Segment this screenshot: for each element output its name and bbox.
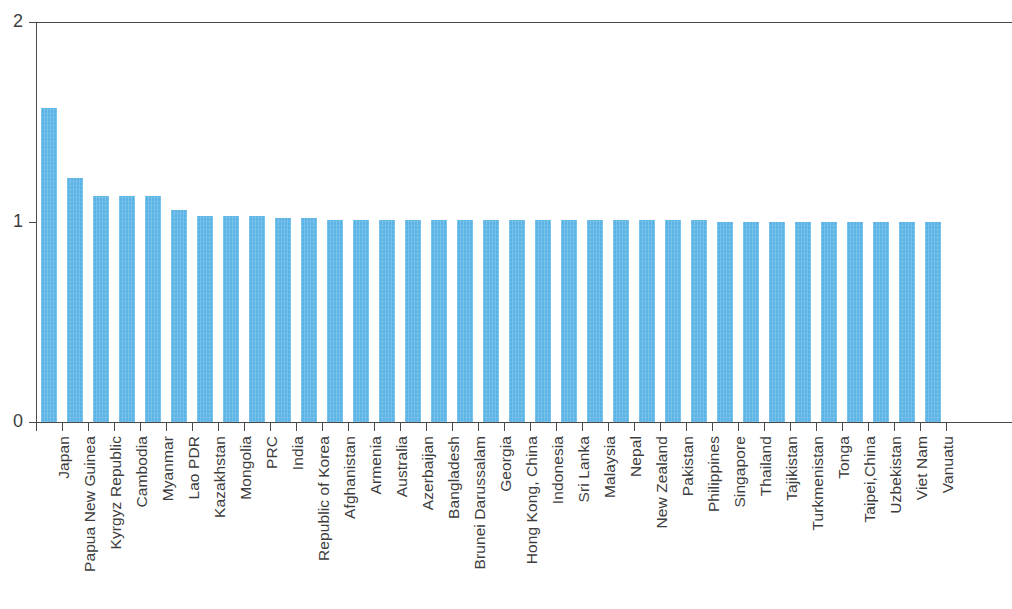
x-axis-label: Thailand [758,436,774,609]
x-axis-tick-mark [270,422,271,431]
bar [301,218,317,422]
x-axis-tick-mark [504,422,505,431]
bar [483,220,499,422]
x-axis-tick-mark [114,422,115,431]
x-axis-label: Australia [394,436,410,609]
x-axis-line [36,422,1012,423]
plot-area [36,22,1012,422]
x-axis-tick-mark [88,422,89,431]
x-axis-label: Bangladesh [446,436,462,609]
bar [795,222,811,422]
bar [769,222,785,422]
x-axis-tick-mark [400,422,401,431]
bar [93,196,109,422]
bar [665,220,681,422]
x-axis-tick-mark [816,422,817,431]
bar [639,220,655,422]
x-axis-tick-mark [478,422,479,431]
x-axis-label: Uzbekistan [888,436,904,609]
x-axis-label: Lao PDR [186,436,202,609]
x-axis-label: Pakistan [680,436,696,609]
bar [847,222,863,422]
x-axis-tick-mark [790,422,791,431]
bar [145,196,161,422]
bar [353,220,369,422]
x-axis-tick-mark [738,422,739,431]
x-axis-tick-mark [556,422,557,431]
x-axis-tick-mark [140,422,141,431]
x-axis-label: PRC [264,436,280,609]
x-axis-tick-mark [166,422,167,431]
bar [197,216,213,422]
x-axis-tick-mark [634,422,635,431]
x-axis-tick-mark [712,422,713,431]
bar [223,216,239,422]
bar [821,222,837,422]
x-axis-label: Taipei,China [862,436,878,609]
y-axis-tick-mark [29,422,36,423]
x-axis-tick-mark [244,422,245,431]
x-axis-tick-mark [296,422,297,431]
x-axis-tick-mark [868,422,869,431]
bar [873,222,889,422]
bar [717,222,733,422]
x-axis-label: Cambodia [134,436,150,609]
x-axis-label: Papua New Guinea [82,436,98,609]
x-axis-tick-mark [582,422,583,431]
x-axis-label: India [290,436,306,609]
bar [925,222,941,422]
x-axis-tick-mark [192,422,193,431]
x-axis-tick-mark [452,422,453,431]
x-axis-label: Malaysia [602,436,618,609]
bar-chart: 012 JapanPapua New GuineaKyrgyz Republic… [0,0,1012,609]
x-axis-label: Tonga [836,436,852,609]
x-axis-label: Mongolia [238,436,254,609]
bar [327,220,343,422]
x-axis-label: Singapore [732,436,748,609]
x-axis-tick-mark [322,422,323,431]
x-axis-tick-mark [764,422,765,431]
bar [171,210,187,422]
x-axis-label: Hong Kong, China [524,436,540,609]
x-axis-label: Viet Nam [914,436,930,609]
x-axis-tick-mark [36,422,37,431]
x-axis-label: Tajikistan [784,436,800,609]
bar [535,220,551,422]
bar [457,220,473,422]
x-axis-label: Indonesia [550,436,566,609]
y-axis-tick-mark [29,222,36,223]
y-axis-tick-label: 2 [13,11,23,31]
bar [613,220,629,422]
bar [431,220,447,422]
bar [743,222,759,422]
x-axis-tick-mark [348,422,349,431]
x-axis-label: Myanmar [160,436,176,609]
x-axis-tick-mark [686,422,687,431]
x-axis-tick-mark [608,422,609,431]
bar [899,222,915,422]
x-axis-label: Armenia [368,436,384,609]
x-axis-label: Brunei Darussalam [472,436,488,609]
x-axis-label: Vanuatu [940,436,956,609]
x-axis-label: Philippines [706,436,722,609]
x-axis-tick-mark [62,422,63,431]
x-axis-tick-mark [374,422,375,431]
bar [67,178,83,422]
x-axis-label: Kazakhstan [212,436,228,609]
x-axis-label: Japan [56,436,72,609]
x-axis-label: Georgia [498,436,514,609]
x-axis-tick-mark [920,422,921,431]
x-axis-tick-mark [660,422,661,431]
y-axis-tick-mark [29,22,36,23]
bar [691,220,707,422]
x-axis-tick-mark [946,422,947,431]
x-axis-tick-mark [530,422,531,431]
bar [587,220,603,422]
x-axis-label: Nepal [628,436,644,609]
x-axis-tick-mark [842,422,843,431]
x-axis-label: Afghanistan [342,436,358,609]
bar [119,196,135,422]
x-axis-tick-mark [218,422,219,431]
x-axis-label: New Zealand [654,436,670,609]
bar [249,216,265,422]
